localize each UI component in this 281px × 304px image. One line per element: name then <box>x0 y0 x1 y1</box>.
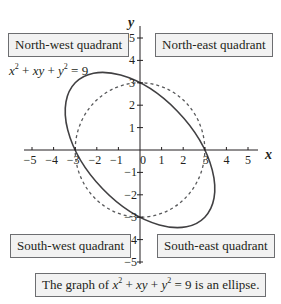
caption-prefix: The graph of <box>42 277 112 292</box>
svg-text:−4: −4 <box>45 153 58 167</box>
eq-plus-2: + <box>44 63 58 78</box>
svg-text:4: 4 <box>223 153 229 167</box>
caption-plus-2: + <box>148 277 162 292</box>
north-east-quadrant-label: North-east quadrant <box>155 33 273 57</box>
x-tick-labels: −5 −4 −3 −2 −1 0 1 2 3 4 5 <box>24 153 251 167</box>
y-axis-label: y <box>126 15 135 30</box>
caption-box: The graph of x2 + xy + y2 = 9 is an elli… <box>35 273 266 297</box>
svg-text:−2: −2 <box>88 153 101 167</box>
caption-xy: xy <box>136 277 148 292</box>
eq-xy: xy <box>33 63 45 78</box>
svg-text:5: 5 <box>129 31 135 45</box>
y-tick-labels-positive: 1 2 3 4 5 <box>129 31 135 135</box>
eq-rhs: = 9 <box>68 63 88 78</box>
svg-text:2: 2 <box>180 153 186 167</box>
x-axis-label: x <box>264 147 272 162</box>
svg-text:1: 1 <box>159 153 165 167</box>
svg-text:5: 5 <box>245 153 251 167</box>
north-west-quadrant-label: North-west quadrant <box>8 33 129 57</box>
svg-text:2: 2 <box>129 98 135 112</box>
svg-text:−5: −5 <box>24 153 37 167</box>
svg-text:−1: −1 <box>124 165 137 179</box>
south-east-quadrant-label: South-east quadrant <box>157 234 275 258</box>
south-west-quadrant-label: South-west quadrant <box>10 234 131 258</box>
caption-plus-1: + <box>122 277 136 292</box>
svg-text:3: 3 <box>203 153 209 167</box>
svg-text:−1: −1 <box>110 153 123 167</box>
svg-text:4: 4 <box>129 53 135 67</box>
caption-suffix: = 9 is an ellipse. <box>171 277 259 292</box>
svg-text:3: 3 <box>129 76 135 90</box>
svg-text:−2: −2 <box>124 188 137 202</box>
svg-text:0: 0 <box>140 153 146 167</box>
eq-plus-1: + <box>19 63 33 78</box>
svg-text:−3: −3 <box>67 153 80 167</box>
svg-text:−3: −3 <box>124 210 137 224</box>
svg-text:1: 1 <box>129 121 135 135</box>
equation-label: x2 + xy + y2 = 9 <box>9 63 88 79</box>
